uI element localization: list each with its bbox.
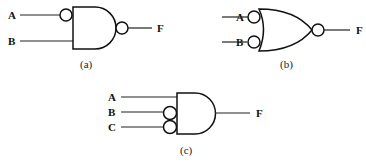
gate-c-input-c-label: C [108,121,116,133]
gate-b: A B F (b) [222,9,363,71]
gate-b-output-f-label: F [356,24,363,36]
gate-c-output-f-label: F [256,107,263,119]
gate-b-caption: (b) [280,58,293,71]
gate-a: A B F (a) [8,7,164,71]
gate-a-input-a-label: A [8,9,16,21]
gate-a-output-f-label: F [157,22,164,34]
gate-a-output-inversion-bubble [116,22,128,34]
gate-a-input-a-inversion-bubble [60,9,72,21]
gate-b-input-a-inversion-bubble [248,11,260,23]
gate-a-input-b-label: B [8,35,16,47]
gate-c-input-b-inversion-bubble [164,107,177,120]
gate-b-output-inversion-bubble [312,24,324,36]
gate-b-or-body [259,9,312,51]
gate-a-and-body [73,7,116,49]
gate-c-input-c-inversion-bubble [164,121,177,134]
logic-gates-diagram: A B F (a) A B F (b) A B C [0,0,366,162]
gate-a-caption: (a) [80,58,93,71]
gate-c-caption: (c) [180,144,193,157]
gate-c-input-a-label: A [108,91,116,103]
gate-c: A B C F (c) [108,91,263,157]
gate-b-input-b-inversion-bubble [248,36,260,48]
gate-c-and-body [177,93,215,134]
gate-c-input-b-label: B [108,106,116,118]
